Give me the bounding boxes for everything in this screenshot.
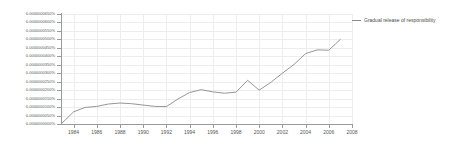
y-axis-tick-label: 0.0000000450% xyxy=(0,46,55,50)
y-axis-tick xyxy=(57,107,61,108)
x-axis-tick xyxy=(120,125,121,128)
x-axis-tick xyxy=(259,125,260,128)
y-axis-tick xyxy=(57,90,61,91)
y-axis-tick xyxy=(57,48,61,49)
x-axis-tick-label: 1998 xyxy=(224,129,248,135)
x-axis-tick-label: 1990 xyxy=(131,129,155,135)
x-axis-tick-label: 1996 xyxy=(201,129,225,135)
y-axis-tick-label: 0.0000000250% xyxy=(0,80,55,84)
x-axis-tick xyxy=(282,125,283,128)
x-axis-tick-label: 1994 xyxy=(178,129,202,135)
y-axis-tick xyxy=(57,65,61,66)
y-axis-tick-label: 0.0000000550% xyxy=(0,29,55,33)
series-path xyxy=(62,39,340,123)
x-axis-tick-label: 2000 xyxy=(247,129,271,135)
x-axis-tick xyxy=(190,125,191,128)
legend-label: Gradual release of responsibility xyxy=(364,17,435,23)
y-axis-tick-label: 0.0000000300% xyxy=(0,71,55,75)
y-axis-tick xyxy=(57,124,61,125)
x-axis-tick xyxy=(306,125,307,128)
y-axis-tick-label: 0.0000000600% xyxy=(0,20,55,24)
x-axis-tick-label: 1984 xyxy=(62,129,86,135)
x-axis-tick xyxy=(74,125,75,128)
x-axis-tick-label: 2006 xyxy=(317,129,341,135)
x-axis-tick xyxy=(236,125,237,128)
y-axis-tick-label: 0.0000000500% xyxy=(0,37,55,41)
y-axis-tick xyxy=(57,99,61,100)
x-axis-tick xyxy=(213,125,214,128)
y-axis-tick xyxy=(57,22,61,23)
y-axis-tick-label: 0.0000000100% xyxy=(0,105,55,109)
x-axis-tick xyxy=(166,125,167,128)
y-axis-tick xyxy=(57,73,61,74)
x-axis-tick xyxy=(97,125,98,128)
y-axis-tick xyxy=(57,39,61,40)
chart-legend: Gradual release of responsibility xyxy=(352,17,435,23)
x-axis-tick-label: 2002 xyxy=(270,129,294,135)
x-axis-tick-label: 2008 xyxy=(340,129,364,135)
ngram-line-chart: 0.0000000650%0.0000000600%0.0000000550%0… xyxy=(0,0,453,147)
y-axis-tick-label: 0.0000000400% xyxy=(0,54,55,58)
gridline-vertical xyxy=(352,14,353,124)
x-axis-tick-label: 1988 xyxy=(108,129,132,135)
x-axis-tick xyxy=(329,125,330,128)
x-axis-line xyxy=(61,124,353,125)
legend-line-swatch xyxy=(352,20,361,21)
y-axis-tick xyxy=(57,14,61,15)
x-axis-tick xyxy=(352,125,353,128)
y-axis-tick-label: 0.0000000350% xyxy=(0,63,55,67)
y-axis-tick-label: 0.0000000650% xyxy=(0,12,55,16)
y-axis-tick xyxy=(57,56,61,57)
y-axis-tick-label: 0.0000000000% xyxy=(0,122,55,126)
x-axis-tick-label: 1986 xyxy=(85,129,109,135)
x-axis-tick-label: 2004 xyxy=(294,129,318,135)
y-axis-tick xyxy=(57,116,61,117)
y-axis-tick-label: 0.0000000050% xyxy=(0,114,55,118)
y-axis-tick xyxy=(57,31,61,32)
y-axis-tick xyxy=(57,82,61,83)
y-axis-tick-label: 0.0000000150% xyxy=(0,97,55,101)
y-axis-tick-label: 0.0000000200% xyxy=(0,88,55,92)
x-axis-tick-label: 1992 xyxy=(154,129,178,135)
series-line-gradual-release-of-responsibility xyxy=(62,14,352,124)
x-axis-tick xyxy=(143,125,144,128)
